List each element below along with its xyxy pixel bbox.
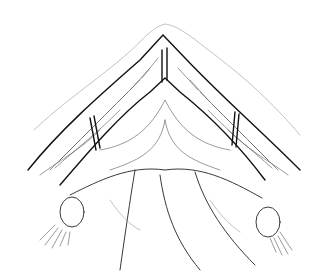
left-ovary	[60, 197, 84, 227]
anatomical-illustration	[0, 0, 322, 279]
right-flap-hatching	[178, 68, 288, 175]
right-ovary	[256, 207, 280, 237]
left-flap-hatching	[40, 58, 158, 175]
left-fimbriae	[40, 225, 70, 248]
central-stem	[120, 170, 255, 270]
sutures	[90, 48, 239, 150]
flap-inner-edge	[60, 78, 265, 185]
illustration-drawing	[0, 0, 322, 279]
central-tissue	[70, 169, 262, 198]
